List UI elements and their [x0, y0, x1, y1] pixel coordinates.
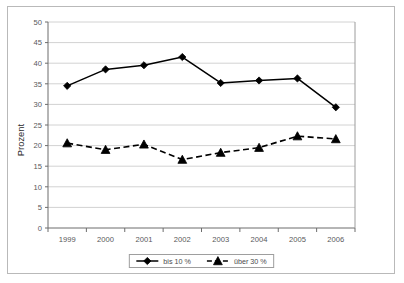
x-axis-tick-label: 2004	[251, 235, 268, 244]
x-axis-tick-label: 2003	[212, 235, 229, 244]
y-axis-tick-label: 30	[34, 100, 42, 109]
y-axis-tick-labels: 05101520253035404550	[34, 18, 42, 233]
x-axis-tick-label: 2002	[174, 235, 191, 244]
y-axis-title: Prozent	[15, 123, 26, 156]
x-tick-marks	[48, 228, 355, 232]
y-axis-tick-label: 20	[34, 141, 42, 150]
y-axis-tick-label: 50	[34, 18, 42, 27]
x-axis-tick-labels: 19992000200120022003200420052006	[59, 235, 345, 244]
x-axis-tick-label: 2001	[135, 235, 152, 244]
y-axis-tick-label: 15	[34, 162, 42, 171]
legend-label: über 30 %	[234, 257, 267, 266]
y-axis-tick-label: 10	[34, 183, 42, 192]
y-axis-tick-label: 45	[34, 38, 42, 47]
chart-legend: bis 10 %über 30 %	[129, 255, 273, 268]
x-axis-tick-label: 1999	[59, 235, 76, 244]
y-axis-tick-label: 5	[38, 203, 42, 212]
chart-container: 05101520253035404550 1999200020012002200…	[0, 0, 404, 283]
y-axis-tick-label: 35	[34, 80, 42, 89]
legend-label: bis 10 %	[163, 257, 191, 266]
x-axis-tick-label: 2005	[289, 235, 306, 244]
y-axis-tick-label: 40	[34, 59, 42, 68]
x-axis-tick-label: 2000	[97, 235, 114, 244]
y-axis-tick-label: 25	[34, 121, 42, 130]
y-axis-tick-label: 0	[38, 224, 42, 233]
x-axis-tick-label: 2006	[327, 235, 344, 244]
line-chart: 05101520253035404550 1999200020012002200…	[0, 0, 404, 283]
